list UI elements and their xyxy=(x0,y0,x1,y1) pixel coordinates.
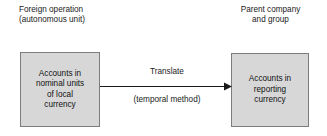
right-column-header-line2: and group xyxy=(222,15,319,25)
target-accounts-box-line1: Accounts in xyxy=(249,74,291,84)
diagram-canvas: Foreign operation (autonomous unit) Pare… xyxy=(0,0,327,136)
arrow-label-above: Translate xyxy=(108,67,226,77)
source-accounts-box-text: Accounts in nominal units of local curre… xyxy=(33,69,87,111)
target-accounts-box-line3: currency xyxy=(249,95,291,105)
target-accounts-box-line2: reporting xyxy=(249,85,291,95)
source-accounts-box-line3: of local xyxy=(36,90,84,100)
left-column-header-line1: Foreign operation xyxy=(19,5,85,15)
source-accounts-box-line1: Accounts in xyxy=(36,69,84,79)
arrow-label-below: (temporal method) xyxy=(106,95,228,105)
right-column-header-line1: Parent company xyxy=(222,5,319,15)
left-column-header-line2: (autonomous unit) xyxy=(19,15,85,25)
source-accounts-box: Accounts in nominal units of local curre… xyxy=(20,52,100,127)
target-accounts-box-text: Accounts in reporting currency xyxy=(246,74,294,105)
target-accounts-box: Accounts in reporting currency xyxy=(231,53,309,127)
translate-arrow-icon xyxy=(100,78,232,95)
right-column-header: Parent company and group xyxy=(222,5,319,25)
source-accounts-box-line4: currency xyxy=(36,100,84,110)
source-accounts-box-line2: nominal units xyxy=(36,79,84,89)
left-column-header: Foreign operation (autonomous unit) xyxy=(19,5,85,25)
